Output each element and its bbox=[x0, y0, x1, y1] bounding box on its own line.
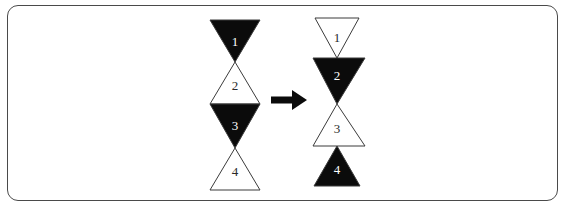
transform-arrow bbox=[271, 89, 307, 111]
figure-canvas: 1 2 3 4 1 bbox=[0, 0, 565, 219]
right-triangle-4[interactable]: 4 bbox=[314, 146, 360, 186]
left-triangle-2[interactable]: 2 bbox=[210, 62, 260, 104]
triangle-stack-after: 1 2 3 4 bbox=[311, 16, 367, 188]
left-triangle-4-label: 4 bbox=[232, 164, 239, 179]
right-triangle-1[interactable]: 1 bbox=[315, 18, 359, 58]
left-triangle-1[interactable]: 1 bbox=[210, 20, 260, 62]
arrow-right-icon bbox=[271, 89, 307, 111]
right-triangle-4-label: 4 bbox=[334, 162, 341, 177]
left-triangle-4[interactable]: 4 bbox=[210, 148, 260, 190]
right-triangle-1-label: 1 bbox=[334, 30, 341, 45]
left-triangle-3-label: 3 bbox=[232, 118, 239, 133]
left-stack-svg: 1 2 3 4 bbox=[208, 18, 262, 192]
arrow-right-icon-shape bbox=[271, 90, 307, 110]
left-triangle-3[interactable]: 3 bbox=[210, 104, 260, 148]
right-stack-svg: 1 2 3 4 bbox=[311, 16, 367, 188]
left-triangle-2-label: 2 bbox=[232, 78, 239, 93]
right-triangle-3-label: 3 bbox=[334, 121, 341, 136]
triangle-stack-before: 1 2 3 4 bbox=[208, 18, 262, 192]
right-triangle-2-label: 2 bbox=[334, 68, 341, 83]
right-triangle-3[interactable]: 3 bbox=[313, 104, 365, 146]
right-triangle-2[interactable]: 2 bbox=[313, 58, 365, 104]
left-triangle-1-label: 1 bbox=[232, 34, 239, 49]
